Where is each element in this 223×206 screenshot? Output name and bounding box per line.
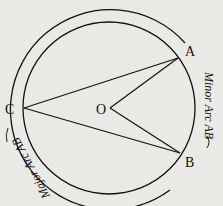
point-label-A: A bbox=[185, 44, 196, 59]
major-arc-overline-icon bbox=[6, 128, 8, 142]
point-label-B: B bbox=[185, 155, 194, 170]
diagram-svg: A B C O Minor Arc AB Major Arc AB bbox=[0, 0, 223, 206]
segment-OB bbox=[110, 108, 180, 153]
circle-arc-diagram: A B C O Minor Arc AB Major Arc AB bbox=[0, 0, 223, 206]
point-label-C: C bbox=[5, 102, 14, 117]
point-label-O: O bbox=[96, 102, 106, 117]
segment-CA bbox=[24, 58, 178, 108]
segment-OA bbox=[110, 58, 178, 108]
minor-arc-label: Minor Arc AB bbox=[202, 71, 216, 140]
circle bbox=[23, 22, 195, 194]
